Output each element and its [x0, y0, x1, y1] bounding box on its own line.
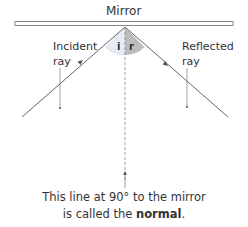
reflected-ray-label-line1: Reflected [182, 40, 234, 54]
incident-ray-label-line2: ray [53, 55, 71, 69]
incident-leader-dot [59, 107, 61, 109]
angle-r-label: r [129, 40, 134, 54]
normal-caption-suffix: . [181, 207, 185, 221]
reflected-leader-dot [186, 106, 188, 108]
mirror-label: Mirror [106, 4, 141, 18]
normal-leader-arrow-icon [123, 171, 127, 175]
mirror-bar [15, 22, 233, 26]
normal-caption-line1: This line at 90° to the mirror [0, 189, 248, 206]
normal-caption-line2: is called the normal. [0, 206, 248, 223]
normal-caption-prefix: is called the [63, 207, 136, 221]
reflected-ray-label-line2: ray [182, 55, 200, 69]
normal-caption: This line at 90° to the mirror is called… [0, 189, 248, 223]
incident-ray-label-line1: Incident [53, 40, 97, 54]
angle-i-label: i [117, 40, 120, 54]
normal-caption-term: normal [136, 207, 181, 221]
